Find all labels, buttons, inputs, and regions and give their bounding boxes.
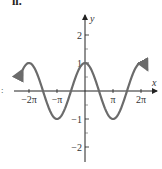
y-tick-label: −2	[71, 142, 82, 153]
x-tick-label: π	[110, 94, 115, 105]
y-tick-label: 2	[77, 30, 82, 41]
x-tick-label: −π	[52, 94, 63, 105]
x-tick-label: 2π	[136, 94, 146, 105]
cosine-graph: −2π−ππ2π 21−1−2 x y	[0, 0, 162, 169]
x-tick-label: −2π	[21, 94, 37, 105]
x-axis-label: x	[151, 77, 157, 88]
y-tick-label: −1	[71, 114, 82, 125]
y-axis-label: y	[89, 13, 95, 24]
